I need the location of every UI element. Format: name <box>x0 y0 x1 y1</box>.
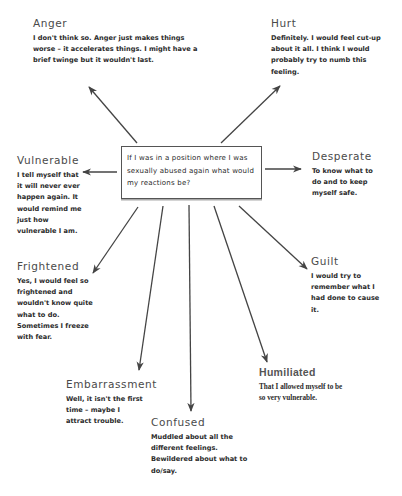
arrow-embarrassment <box>139 206 163 370</box>
node-title-hurt: Hurt <box>271 17 391 29</box>
node-embarrassment: Embarrassment Well, it isn't the first t… <box>66 378 146 428</box>
node-title-guilt: Guilt <box>311 255 386 267</box>
node-title-desperate: Desperate <box>312 150 376 162</box>
arrow-confused <box>189 205 191 411</box>
node-text-frightened: Yes, I would feel so frightened and woul… <box>17 276 93 343</box>
central-question-box: If I was in a position where I was sexua… <box>121 146 262 199</box>
arrow-anger <box>89 87 137 143</box>
node-text-guilt: I would try to remember what I had done … <box>311 271 386 316</box>
node-title-anger: Anger <box>33 17 198 29</box>
node-title-vulnerable: Vulnerable <box>17 154 83 166</box>
node-text-vulnerable: I tell myself that it will never ever ha… <box>17 170 83 237</box>
node-hurt: Hurt Definitely. I would feel cut-up abo… <box>271 17 391 78</box>
node-desperate: Desperate To know what to do and to keep… <box>312 150 376 200</box>
node-vulnerable: Vulnerable I tell myself that it will ne… <box>17 154 83 237</box>
node-confused: Confused Muddled about all the different… <box>151 416 251 477</box>
arrow-hurt <box>221 86 280 143</box>
node-title-confused: Confused <box>151 416 251 428</box>
arrow-humiliated <box>214 206 267 362</box>
node-text-embarrassment: Well, it isn't the first time – maybe I … <box>66 394 146 428</box>
node-text-hurt: Definitely. I would feel cut-up about it… <box>271 33 391 78</box>
node-title-embarrassment: Embarrassment <box>66 378 146 390</box>
node-text-anger: I don't think so. Anger just makes thing… <box>33 33 198 67</box>
node-text-desperate: To know what to do and to keep myself sa… <box>312 166 376 200</box>
central-question: If I was in a position where I was sexua… <box>127 152 256 190</box>
arrow-guilt <box>239 206 307 269</box>
arrow-frightened <box>93 207 138 273</box>
node-text-confused: Muddled about all the different feelings… <box>151 432 251 477</box>
node-frightened: Frightened Yes, I would feel so frighten… <box>17 260 93 343</box>
node-text-humiliated: That I allowed myself to be so very vuln… <box>259 382 349 404</box>
node-guilt: Guilt I would try to remember what I had… <box>311 255 386 316</box>
node-humiliated: Humiliated That I allowed myself to be s… <box>259 366 349 404</box>
node-anger: Anger I don't think so. Anger just makes… <box>33 17 198 67</box>
node-title-humiliated: Humiliated <box>259 366 349 378</box>
node-title-frightened: Frightened <box>17 260 93 272</box>
